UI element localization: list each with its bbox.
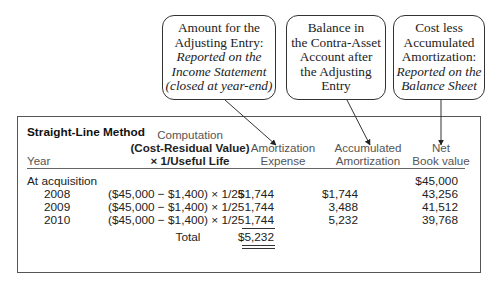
callout-contra-asset-balance: Balance in the Contra-Asset Account afte… [286, 15, 386, 100]
callout-text: Accumulated [394, 36, 484, 51]
callout-text: Account after [287, 50, 385, 65]
callout-net-book-value: Cost less Accumulated Amortization: Repo… [393, 15, 485, 100]
header-divider [27, 168, 465, 169]
cell-expense: 1,744 [218, 214, 274, 227]
callout-text: Amortization: [394, 50, 484, 65]
cell-accumulated: 5,232 [302, 214, 358, 227]
total-label: Total [158, 231, 218, 244]
callout-text: Cost less [394, 21, 484, 36]
header-year: Year [27, 154, 50, 168]
cell-nbv: 39,768 [398, 214, 458, 227]
callout-text: Amount for the [163, 21, 275, 36]
callout-text: Reported on the [163, 50, 275, 65]
cell-year: 2010 [44, 214, 70, 227]
callout-text: Reported on the [394, 65, 484, 80]
total-expense: $5,232 [218, 231, 274, 244]
callout-text: Income Statement [163, 65, 275, 80]
header-computation-1: Computation [115, 128, 265, 142]
header-expense-1: Amortization [243, 141, 323, 155]
callout-text: Adjusting Entry: [163, 36, 275, 51]
callout-text: Balance in [287, 21, 385, 36]
total-double-underline [242, 245, 275, 249]
callout-amount-adjusting-entry: Amount for the Adjusting Entry: Reported… [162, 15, 276, 100]
header-nbv-2: Book value [406, 154, 476, 168]
header-accumulated-2: Amortization [326, 154, 410, 168]
callout-text: the Contra-Asset [287, 36, 385, 51]
subtotal-underline [242, 228, 275, 229]
callout-text: Balance Sheet [394, 79, 484, 94]
callout-text: (closed at year-end) [163, 79, 275, 94]
callout-text: Entry [287, 79, 385, 94]
header-nbv-1: Net [406, 141, 476, 155]
straight-line-table: Straight-Line Method Year Computation (C… [17, 116, 481, 273]
callout-text: the Adjusting [287, 65, 385, 80]
header-expense-2: Expense [243, 154, 323, 168]
header-accumulated-1: Accumulated [326, 141, 410, 155]
